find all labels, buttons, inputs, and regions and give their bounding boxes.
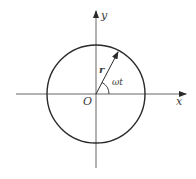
y-axis-label: y xyxy=(100,9,108,22)
radius-vector-label: r xyxy=(99,64,105,75)
angle-arc xyxy=(102,83,109,95)
circle-motion-diagram: y x O r ωt xyxy=(0,0,196,179)
angle-label: ωt xyxy=(112,77,123,87)
origin-label: O xyxy=(83,95,92,108)
x-axis-label: x xyxy=(176,95,183,108)
